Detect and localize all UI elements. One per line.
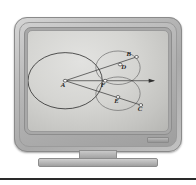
point-label-F: F xyxy=(101,83,106,88)
point-label-E: E xyxy=(113,99,119,104)
point-node-F[interactable] xyxy=(103,79,107,82)
screenshot-root: A B C D E F xyxy=(0,0,196,185)
ray-arrowhead-icon xyxy=(149,79,155,83)
tv-control-panel[interactable] xyxy=(147,137,169,143)
lower-circle xyxy=(96,77,140,111)
upper-circle xyxy=(96,51,140,85)
tv-stand-base xyxy=(38,158,158,167)
point-label-D: D xyxy=(120,65,127,70)
screen-bezel: A B C D E F xyxy=(24,27,172,135)
bottom-divider xyxy=(0,178,196,180)
point-label-B: B xyxy=(125,52,131,57)
point-node-A[interactable] xyxy=(63,79,67,82)
point-node-E[interactable] xyxy=(116,96,120,99)
point-node-C[interactable] xyxy=(139,104,143,107)
point-node-B[interactable] xyxy=(135,56,139,59)
tv-screen[interactable]: A B C D E F xyxy=(27,30,169,132)
tv-inner-case: A B C D E F xyxy=(19,22,177,147)
point-label-C: C xyxy=(138,107,144,112)
geometry-diagram: A B C D E F xyxy=(28,31,168,131)
point-label-A: A xyxy=(60,83,66,88)
tv-outer-case: A B C D E F xyxy=(14,17,182,152)
